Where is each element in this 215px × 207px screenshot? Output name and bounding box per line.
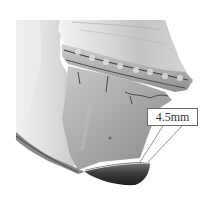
measurement-value: 4.5mm bbox=[156, 110, 190, 125]
mandible-3d-render bbox=[0, 0, 215, 207]
measurement-label: 4.5mm bbox=[147, 108, 198, 126]
mental-foramen bbox=[108, 136, 111, 139]
chin-segment bbox=[85, 162, 150, 185]
